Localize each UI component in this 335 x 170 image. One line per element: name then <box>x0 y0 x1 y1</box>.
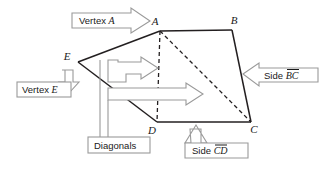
vertex-label-A: A <box>151 15 159 27</box>
diagonals-group <box>157 31 251 122</box>
diagonal-AD <box>157 31 160 122</box>
callout-vertex-e[interactable]: Vertex E <box>17 70 79 97</box>
diagonals-connector <box>100 60 108 137</box>
geometry-diagram: A B C D E Vertex A Vertex E Side BC Side… <box>0 0 335 170</box>
callout-side-cd-label: Side CD <box>192 145 228 156</box>
callout-side-bc-label: Side BC <box>264 70 299 81</box>
side-EA <box>78 31 160 62</box>
callout-diagonals-label: Diagonals <box>94 140 136 151</box>
callout-vertex-a-label: Vertex A <box>79 15 116 26</box>
diagonal-AC <box>160 31 251 122</box>
polygon-outline <box>78 30 251 122</box>
vertex-label-D: D <box>147 124 156 136</box>
diagonals-arrow-upper <box>108 57 158 82</box>
callout-side-cd-arrow <box>185 125 207 143</box>
diagram-canvas: A B C D E Vertex A Vertex E Side BC Side… <box>0 0 335 170</box>
callout-vertex-a[interactable]: Vertex A <box>72 8 150 33</box>
vertex-label-E: E <box>63 50 71 62</box>
callout-side-cd[interactable]: Side CD <box>185 125 248 158</box>
side-AB <box>160 30 232 31</box>
diagonals-arrow-lower <box>108 83 203 105</box>
vertex-label-B: B <box>231 14 238 26</box>
callout-side-bc[interactable]: Side BC <box>243 63 318 86</box>
callout-vertex-e-label: Vertex E <box>22 84 58 95</box>
callout-diagonals[interactable]: Diagonals <box>88 57 203 153</box>
vertex-label-C: C <box>250 123 258 135</box>
